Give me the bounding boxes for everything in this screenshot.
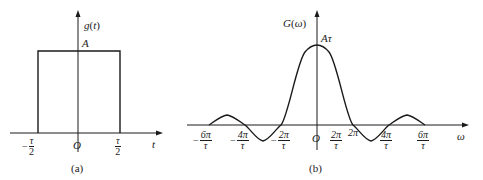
- tick-pos-2pi: 2πτ: [330, 130, 342, 151]
- omega-axis-label: ω: [457, 131, 465, 142]
- panel-a-ylabel: g(t): [84, 20, 100, 31]
- tick-pos-tau-half: τ2: [115, 136, 121, 157]
- tick-pos-6pi: 6πτ: [417, 130, 429, 151]
- amplitude-label: A: [82, 38, 89, 49]
- tick-pos-4pi: 4πτ: [380, 130, 392, 151]
- x-axis-label: t: [152, 139, 155, 150]
- panel-a-rect-pulse: g(t) A O t − τ2 τ2 (a): [0, 0, 175, 180]
- origin-label: O: [73, 140, 81, 151]
- panel-b-sinc-spectrum: G(ω) Aτ O ω 2π − 6πτ − 4πτ − 2πτ 2πτ 4πτ…: [175, 0, 483, 180]
- tick-neg-tau-half: − τ2: [22, 136, 34, 157]
- peak-label: Aτ: [321, 33, 332, 44]
- tick-neg-6pi: − 6πτ: [193, 130, 212, 151]
- tick-neg-4pi: − 4πτ: [230, 130, 249, 151]
- caption-b: (b): [309, 163, 322, 174]
- panel-b-plot: [175, 0, 483, 180]
- panel-b-ylabel: G(ω): [283, 18, 306, 29]
- extra-tick-2pi: 2π: [348, 127, 358, 138]
- tick-neg-2pi: − 2πτ: [271, 130, 290, 151]
- origin-label-b: O: [312, 133, 320, 144]
- caption-a: (a): [71, 163, 83, 174]
